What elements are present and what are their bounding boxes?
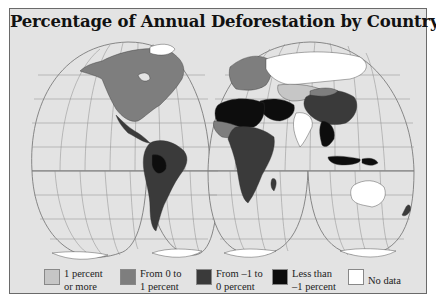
legend-label-line2: 1 percent xyxy=(140,280,181,293)
legend-label-line1: From 0 to xyxy=(140,267,181,280)
legend-label-line1: Less than xyxy=(292,267,336,280)
lobe-west-south xyxy=(32,171,147,257)
legend-item-less-than-minus1: Less than –1 percent xyxy=(272,267,336,293)
region-antarctica-2 xyxy=(152,249,202,257)
legend-swatch xyxy=(120,269,136,285)
legend-swatch xyxy=(196,269,212,285)
legend-label-line2: or more xyxy=(64,280,103,293)
legend-label-line2: –1 percent xyxy=(292,280,336,293)
legend-swatch xyxy=(348,269,364,285)
legend-item-no-data: No data xyxy=(348,267,401,287)
map-frame: Percentage of Annual Deforestation by Co… xyxy=(9,8,427,294)
world-map xyxy=(10,9,428,295)
legend-label: No data xyxy=(368,274,401,287)
region-antarctica-4 xyxy=(340,249,396,257)
legend-item-0-to-1: From 0 to 1 percent xyxy=(120,267,181,293)
region-antarctica-3 xyxy=(224,249,276,257)
legend: 1 percent or more From 0 to 1 percent Fr… xyxy=(10,263,426,293)
legend-label-line1: 1 percent xyxy=(64,267,103,280)
legend-item-minus1-to-0: From –1 to 0 percent xyxy=(196,267,263,293)
legend-label-line2: 0 percent xyxy=(216,280,263,293)
legend-label-line1: From –1 to xyxy=(216,267,263,280)
legend-item-1-percent-or-more: 1 percent or more xyxy=(44,267,103,293)
region-europe xyxy=(229,56,271,90)
legend-swatch xyxy=(272,269,288,285)
legend-swatch xyxy=(44,269,60,285)
